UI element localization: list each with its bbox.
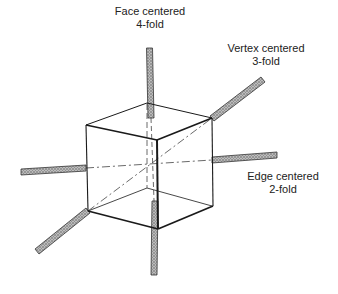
- face-centered-label: Face centered 4-fold: [110, 5, 190, 31]
- vertex-axis-dashed: [88, 118, 212, 211]
- face-axis-rod-top: [147, 48, 155, 118]
- face-centered-fold: 4-fold: [110, 18, 190, 31]
- cube-edges: [86, 103, 213, 229]
- vertex-axis-rod-bottom: [35, 208, 90, 254]
- edge-axis-rod-right: [212, 152, 277, 163]
- vertex-centered-fold: 3-fold: [218, 55, 314, 68]
- rotation-axis-rods: [21, 48, 277, 275]
- hidden-lines: [86, 104, 212, 228]
- vertex-centered-title: Vertex centered: [218, 42, 314, 55]
- face-centered-title: Face centered: [110, 5, 190, 18]
- edge-axis-dashed: [86, 160, 212, 168]
- edge-centered-label: Edge centered 2-fold: [238, 170, 328, 196]
- vertex-centered-label: Vertex centered 3-fold: [218, 42, 314, 68]
- edge-centered-title: Edge centered: [238, 170, 328, 183]
- vertex-axis-rod-top: [210, 77, 265, 121]
- edge-axis-rod-left: [21, 165, 86, 175]
- back-edges: [88, 188, 212, 211]
- edge-centered-fold: 2-fold: [238, 183, 328, 196]
